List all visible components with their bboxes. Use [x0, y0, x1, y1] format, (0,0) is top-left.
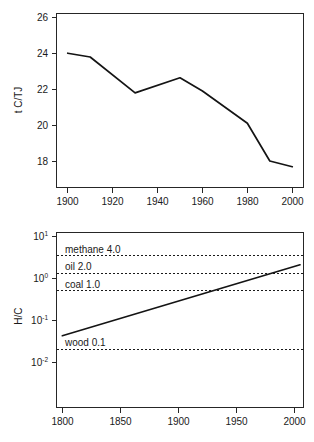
reference-label-coal: coal 1.0 [65, 279, 100, 290]
hydrogen-carbon-line [62, 265, 300, 336]
top-xtick-1960: 1960 [191, 196, 214, 207]
hydrogen-carbon-svg: 101 100 10-1 10-2 H/C 1800 1850 1900 195… [0, 221, 314, 442]
top-xtick-1920: 1920 [101, 196, 124, 207]
hydrogen-carbon-ratio-chart: 101 100 10-1 10-2 H/C 1800 1850 1900 195… [0, 221, 314, 442]
top-ytick-22: 22 [37, 84, 49, 95]
carbon-intensity-chart: 26 24 22 20 18 t C/TJ 1900 1920 1940 196… [0, 0, 314, 221]
top-plot-frame [57, 14, 304, 188]
bottom-x-axis: 1800 1850 1900 1950 2000 [51, 408, 306, 428]
top-x-axis: 1900 1920 1940 1960 1980 2000 [56, 188, 304, 208]
top-ytick-26: 26 [37, 12, 49, 23]
top-ytick-20: 20 [37, 120, 49, 131]
top-xtick-1980: 1980 [236, 196, 259, 207]
bottom-xtick-2000: 2000 [283, 416, 306, 427]
reference-lines-group: methane 4.0 oil 2.0 coal 1.0 wood 0.1 [57, 244, 303, 349]
bottom-xtick-1800: 1800 [51, 416, 74, 427]
bottom-xtick-1900: 1900 [167, 416, 190, 427]
bottom-ytick-1em1: 10-1 [31, 314, 48, 326]
bottom-ytick-1em1-exponent: -1 [42, 314, 48, 321]
top-y-axis: 26 24 22 20 18 [37, 12, 57, 167]
bottom-ytick-1em2: 10-2 [31, 356, 48, 368]
bottom-ytick-1e0-mantissa: 10 [33, 273, 45, 284]
bottom-ytick-1e1: 101 [33, 230, 48, 242]
bottom-plot-frame [57, 233, 304, 408]
carbon-intensity-line [68, 53, 293, 166]
bottom-xtick-1950: 1950 [225, 416, 248, 427]
reference-label-methane: methane 4.0 [65, 244, 121, 255]
top-xtick-1940: 1940 [146, 196, 169, 207]
bottom-y-axis: 101 100 10-1 10-2 [31, 230, 56, 368]
bottom-ytick-1em2-mantissa: 10 [31, 357, 43, 368]
reference-label-wood: wood 0.1 [64, 337, 106, 348]
bottom-ytick-1e1-exponent: 1 [44, 230, 48, 237]
bottom-xtick-1850: 1850 [109, 416, 132, 427]
bottom-ytick-1e1-mantissa: 10 [33, 231, 45, 242]
top-ytick-18: 18 [37, 156, 49, 167]
bottom-ytick-1e0: 100 [33, 272, 48, 284]
figure-container: 26 24 22 20 18 t C/TJ 1900 1920 1940 196… [0, 0, 314, 442]
bottom-ytick-1em2-exponent: -2 [42, 356, 48, 363]
top-ytick-24: 24 [37, 48, 49, 59]
bottom-ytick-1e0-exponent: 0 [44, 272, 48, 279]
top-xtick-1900: 1900 [56, 196, 79, 207]
bottom-y-axis-title: H/C [13, 307, 24, 324]
top-y-axis-title: t C/TJ [13, 87, 24, 114]
bottom-ytick-1em1-mantissa: 10 [31, 315, 43, 326]
carbon-intensity-svg: 26 24 22 20 18 t C/TJ 1900 1920 1940 196… [0, 0, 314, 221]
reference-label-oil: oil 2.0 [65, 261, 92, 272]
top-xtick-2000: 2000 [281, 196, 304, 207]
